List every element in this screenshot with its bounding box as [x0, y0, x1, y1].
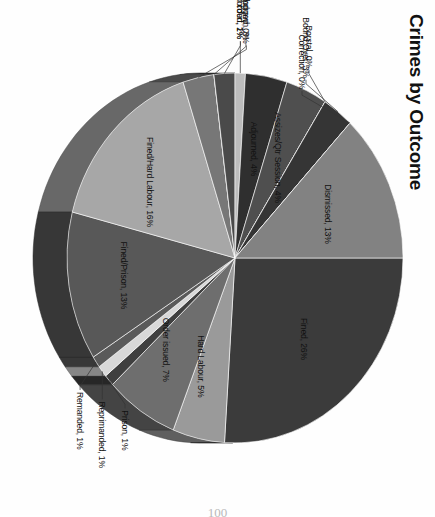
slice-label: Hard Labour, 5%: [197, 335, 206, 397]
slice-label: Not recorded, 1%: [236, 0, 245, 39]
slice-label: Assizes/Qtr Session, 4%: [274, 112, 283, 203]
slice-label: Correction, 0%: [298, 34, 307, 89]
slice-label: Dismissed, 13%: [323, 184, 332, 244]
page-number: 100: [0, 505, 435, 517]
pie-top-faces: [67, 73, 403, 443]
slice-label: Prison, 1%: [121, 410, 130, 450]
leader-line: [214, 43, 246, 75]
slice-label: Adjourned, 4%: [250, 122, 259, 176]
leader-line: [198, 46, 246, 78]
slice-label: Fined/Hard Labour, 16%: [145, 137, 154, 227]
pie-slice-side: [59, 357, 99, 367]
slice-label: Fined/Prison, 13%: [119, 242, 128, 310]
pie-slice-side: [65, 367, 106, 376]
slice-label: Order issued, 7%: [162, 318, 171, 382]
pie-slice[interactable]: [225, 258, 404, 443]
slice-label: Reprimanded, 1%: [98, 401, 107, 468]
slice-label: Fined, 26%: [300, 318, 309, 360]
slice-label: Remanded, 1%: [76, 392, 85, 449]
